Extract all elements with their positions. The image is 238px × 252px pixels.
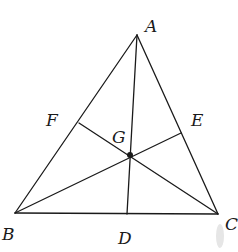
- side-bc: [15, 213, 218, 214]
- scan-smudge: [216, 224, 224, 248]
- point-label-a: A: [143, 16, 157, 36]
- centroid-dot: [127, 152, 133, 158]
- point-label-f: F: [45, 110, 59, 130]
- point-label-e: E: [190, 110, 204, 130]
- median-ad: [127, 35, 137, 214]
- triangle-medians-figure: ABCDEFG: [0, 0, 238, 252]
- points-group: [127, 152, 224, 248]
- point-label-g: G: [112, 127, 126, 147]
- point-label-d: D: [117, 228, 132, 248]
- point-label-b: B: [1, 224, 15, 244]
- point-label-c: C: [225, 214, 238, 234]
- side-ab: [15, 35, 137, 213]
